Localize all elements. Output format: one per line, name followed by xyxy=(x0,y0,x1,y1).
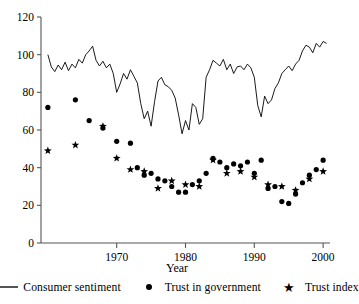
line-swatch-icon xyxy=(0,281,18,293)
x-axis-label: Year xyxy=(166,261,188,275)
data-point-dot xyxy=(259,158,264,163)
data-point-star xyxy=(237,167,245,174)
dot-marker-icon xyxy=(138,281,160,293)
series-trust-index xyxy=(44,122,327,193)
axes xyxy=(37,17,330,248)
data-point-dot xyxy=(321,158,326,163)
data-point-star xyxy=(195,182,203,189)
data-point-star xyxy=(168,177,176,184)
tick-labels: 0204060801001201970198019902000 xyxy=(17,11,335,263)
data-point-star xyxy=(127,165,135,172)
data-point-dot xyxy=(279,199,284,204)
data-point-dot xyxy=(190,182,195,187)
data-point-dot xyxy=(155,176,160,181)
data-point-star xyxy=(154,184,162,191)
data-point-star xyxy=(305,175,313,182)
data-point-dot xyxy=(286,201,291,206)
y-tick-label: 80 xyxy=(23,86,35,98)
data-point-dot xyxy=(149,171,154,176)
data-point-star xyxy=(250,173,258,180)
legend-label-trust-index: Trust index xyxy=(305,281,359,294)
data-point-dot xyxy=(245,159,250,164)
series-trust-in-government xyxy=(45,97,325,206)
data-point-dot xyxy=(73,97,78,102)
legend-label-trust-in-government: Trust in government xyxy=(165,281,261,294)
data-point-dot xyxy=(128,141,133,146)
y-tick-label: 20 xyxy=(23,199,35,211)
data-point-dot xyxy=(45,105,50,110)
data-point-dot xyxy=(135,165,140,170)
data-point-dot xyxy=(300,180,305,185)
legend-label-consumer-sentiment: Consumer sentiment xyxy=(23,281,120,294)
x-tick-label: 1990 xyxy=(243,251,266,263)
data-point-star xyxy=(319,167,327,174)
data-point-star xyxy=(182,181,190,188)
data-point-star xyxy=(72,141,80,148)
data-point-star xyxy=(209,156,217,163)
data-point-dot xyxy=(114,139,119,144)
legend-item-consumer-sentiment: Consumer sentiment xyxy=(0,281,121,294)
data-point-dot xyxy=(183,190,188,195)
x-tick-label: 2000 xyxy=(312,251,335,263)
data-point-dot xyxy=(231,161,236,166)
chart-series xyxy=(44,41,327,206)
data-point-star xyxy=(278,182,286,189)
chart-legend: Consumer sentiment Trust in government ★… xyxy=(0,276,355,298)
legend-item-trust-in-government: Trust in government xyxy=(138,281,261,294)
data-point-star xyxy=(44,147,52,154)
data-point-dot xyxy=(176,190,181,195)
y-tick-label: 100 xyxy=(17,49,35,61)
y-tick-label: 120 xyxy=(17,11,35,23)
data-point-dot xyxy=(162,178,167,183)
y-tick-label: 0 xyxy=(28,237,34,249)
y-tick-label: 40 xyxy=(23,162,35,174)
data-point-dot xyxy=(217,159,222,164)
data-point-dot xyxy=(314,167,319,172)
data-point-star xyxy=(113,154,121,161)
y-tick-label: 60 xyxy=(23,124,35,136)
data-point-dot xyxy=(272,184,277,189)
x-tick-label: 1970 xyxy=(105,251,128,263)
data-point-dot xyxy=(204,171,209,176)
star-marker-icon: ★ xyxy=(278,281,300,293)
data-point-star xyxy=(223,169,231,176)
legend-item-trust-index: ★ Trust index xyxy=(278,281,359,294)
data-point-dot xyxy=(169,184,174,189)
data-point-dot xyxy=(87,118,92,123)
